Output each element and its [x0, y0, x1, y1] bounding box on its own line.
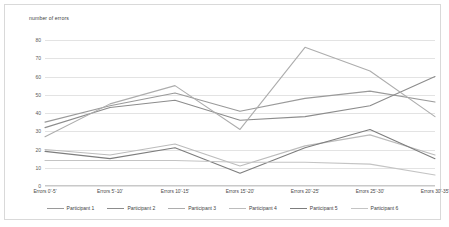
series-lines: [45, 40, 435, 186]
y-axis-tick-label: 60: [35, 74, 41, 80]
series-line: [45, 129, 435, 173]
legend-label: Participant 1: [67, 205, 95, 211]
series-line: [45, 77, 435, 128]
series-line: [45, 135, 435, 166]
legend-swatch: [290, 208, 307, 209]
x-axis-tick-label: Errors 5'-10': [97, 189, 123, 194]
x-axis-tick-label: Errors 15'-20': [226, 189, 255, 194]
legend-item[interactable]: Participant 3: [168, 205, 216, 211]
legend-swatch: [168, 208, 185, 209]
x-axis-tick-label: Errors 10'-15': [161, 189, 190, 194]
legend-label: Participant 6: [371, 205, 399, 211]
y-axis-tick-label: 50: [35, 92, 41, 98]
x-axis-tick-label: Errors 25'-30': [356, 189, 385, 194]
x-axis-tick-label: Errors 20'-25': [291, 189, 320, 194]
y-axis-tick-label: 80: [35, 37, 41, 43]
legend-swatch: [229, 208, 246, 209]
legend-swatch: [47, 208, 64, 209]
y-axis-tick-label: 40: [35, 110, 41, 116]
y-axis-tick-label: 20: [35, 147, 41, 153]
y-axis-tick-label: 10: [35, 165, 41, 171]
legend-label: Participant 4: [249, 205, 277, 211]
legend-label: Participant 2: [127, 205, 155, 211]
legend-item[interactable]: Participant 5: [290, 205, 338, 211]
chart-container: number of errors 01020304050607080 Error…: [4, 4, 441, 220]
legend-item[interactable]: Participant 1: [47, 205, 95, 211]
chart-legend: Participant 1Participant 2Participant 3P…: [5, 205, 440, 211]
legend-item[interactable]: Participant 4: [229, 205, 277, 211]
legend-item[interactable]: Participant 2: [107, 205, 155, 211]
legend-label: Participant 3: [188, 205, 216, 211]
legend-item[interactable]: Participant 6: [351, 205, 399, 211]
legend-swatch: [107, 208, 124, 209]
legend-label: Participant 5: [310, 205, 338, 211]
x-axis-tick-label: Errors 0'-5': [33, 189, 56, 194]
gridline: [45, 186, 435, 187]
y-axis-tick-label: 30: [35, 128, 41, 134]
plot-area: 01020304050607080: [45, 40, 435, 186]
x-axis-tick-label: Errors 30'-35': [421, 189, 449, 194]
y-axis-title: number of errors: [29, 15, 69, 21]
legend-swatch: [351, 208, 368, 209]
y-axis-tick-label: 70: [35, 55, 41, 61]
